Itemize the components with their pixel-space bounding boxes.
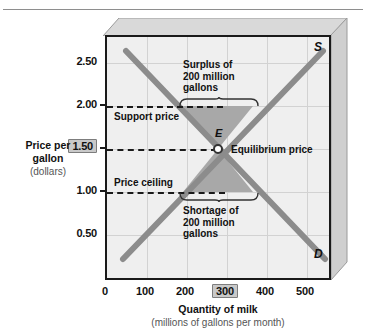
- xtick-label-100: 100: [134, 285, 156, 297]
- equilibrium-point-label: E: [215, 127, 222, 139]
- support-price-label: Support price: [114, 111, 179, 123]
- frame-right-face: [330, 18, 354, 280]
- x-axis-title: Quantity of milk: [105, 303, 331, 316]
- frame-top-face: [103, 18, 347, 36]
- ytick-mark-2.00: [100, 104, 106, 106]
- y-axis-title-line2: gallon: [4, 152, 92, 165]
- ytick-mark-1.00: [100, 190, 106, 192]
- y-axis-title-line1: Price per: [4, 139, 92, 152]
- ytick-label-1.00: 1.00: [55, 184, 97, 196]
- shortage-annotation: Shortage of 200 million gallons: [183, 205, 267, 240]
- equilibrium-point-marker: [213, 144, 223, 154]
- ytick-label-2.50: 2.50: [55, 55, 97, 67]
- ytick-label-2.00: 2.00: [55, 98, 97, 110]
- ytick-label-0.50: 0.50: [55, 227, 97, 239]
- xtick-label-300-highlight: 300: [210, 285, 240, 297]
- price-ceiling-label: Price ceiling: [114, 177, 173, 189]
- plot-inner: Surplus of 200 million gallons Shortage …: [107, 37, 329, 278]
- equilibrium-price-line: [107, 149, 217, 151]
- ytick-mark-1.50: [100, 147, 106, 149]
- shortage-bracket: [179, 192, 259, 202]
- xtick-label-500: 500: [294, 285, 316, 297]
- demand-curve-label: D: [314, 247, 323, 261]
- xtick-label-0: 0: [94, 285, 116, 297]
- surplus-annotation: Surplus of 200 million gallons: [183, 59, 263, 94]
- x-axis-subtitle: (millions of gallons per month): [85, 317, 351, 328]
- plot-area: Surplus of 200 million gallons Shortage …: [105, 35, 331, 280]
- top-divider-rule: [3, 9, 363, 10]
- xtick-label-400: 400: [254, 285, 276, 297]
- surplus-bracket: [179, 97, 259, 107]
- y-axis-title: Price per gallon (dollars): [4, 139, 92, 178]
- supply-curve-label: S: [314, 40, 322, 54]
- xtick-300-value: 300: [212, 284, 238, 298]
- chart-figure: Surplus of 200 million gallons Shortage …: [0, 0, 366, 335]
- xtick-label-200: 200: [174, 285, 196, 297]
- y-axis-title-line3: (dollars): [4, 165, 92, 178]
- equilibrium-price-label: Equilibrium price: [231, 144, 313, 156]
